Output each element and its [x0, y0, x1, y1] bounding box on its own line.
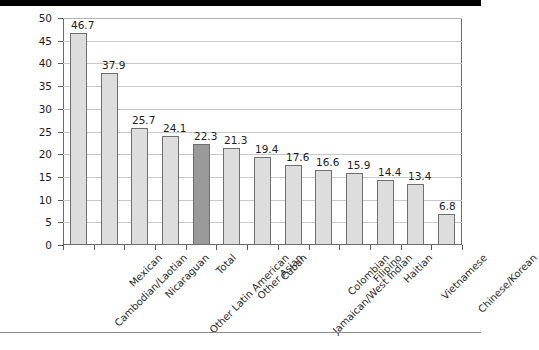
bar: [377, 180, 394, 245]
bar: [70, 33, 87, 245]
gridline: [63, 109, 462, 110]
bar-value-label: 15.9: [347, 160, 370, 171]
bar: [101, 73, 118, 245]
bar-value-label: 25.7: [132, 115, 155, 126]
bar-value-label: 24.1: [163, 123, 186, 134]
y-axis-tick-label: 35: [39, 81, 52, 91]
y-axis-tick-mark: [58, 63, 63, 64]
bar-value-label: 14.4: [378, 167, 401, 178]
y-axis-tick-mark: [58, 222, 63, 223]
bar: [254, 157, 271, 245]
y-axis-tick-mark: [58, 86, 63, 87]
bar-value-label: 17.6: [286, 152, 309, 163]
gridline: [63, 132, 462, 133]
y-axis-tick-mark: [58, 41, 63, 42]
x-axis-tick-mark: [462, 245, 463, 250]
y-axis-tick-label: 50: [39, 13, 52, 23]
bar-value-label: 37.9: [102, 60, 125, 71]
y-axis-tick-label: 10: [39, 195, 52, 205]
bar-value-label: 21.3: [224, 135, 247, 146]
bar-value-label: 46.7: [71, 20, 94, 31]
bar: [315, 170, 332, 245]
y-axis-tick-mark: [58, 132, 63, 133]
x-axis-labels: Cambodian/LaotianMexicanNicaraguanOther …: [63, 250, 462, 345]
bar-value-label: 13.4: [408, 171, 431, 182]
top-black-band: [0, 0, 481, 6]
y-axis-labels: 50454035302520151050: [30, 18, 58, 245]
y-axis-tick-label: 5: [45, 217, 52, 227]
x-axis-tick-label: Total: [214, 252, 238, 276]
y-axis-tick-mark: [58, 200, 63, 201]
bar-value-label: 16.6: [316, 157, 339, 168]
bar-value-label: 6.8: [439, 201, 456, 212]
y-axis-tick-mark: [58, 154, 63, 155]
bar: [438, 214, 455, 245]
bar: [407, 184, 424, 245]
y-axis-tick-label: 45: [39, 36, 52, 46]
y-axis-tick-mark: [58, 177, 63, 178]
bar-value-label: 19.4: [255, 144, 278, 155]
y-axis-tick-label: 25: [39, 127, 52, 137]
y-axis-tick-mark: [58, 18, 63, 19]
y-axis-tick-label: 15: [39, 172, 52, 182]
bar: [193, 144, 210, 245]
y-axis-tick-label: 40: [39, 58, 52, 68]
bar: [285, 165, 302, 245]
y-axis-tick-label: 20: [39, 149, 52, 159]
plot-area: 46.737.925.724.122.321.319.417.616.615.9…: [63, 18, 462, 245]
gridline: [63, 18, 462, 19]
x-axis-tick-label: Vietnamese: [439, 252, 489, 302]
gridline: [63, 41, 462, 42]
gridline: [63, 86, 462, 87]
y-axis-tick-label: 30: [39, 104, 52, 114]
bar-value-label: 22.3: [194, 131, 217, 142]
bottom-divider-rule: [0, 332, 481, 333]
bar: [162, 136, 179, 245]
bar: [131, 128, 148, 245]
y-axis-tick-mark: [58, 109, 63, 110]
y-axis-tick-label: 0: [45, 240, 52, 250]
bar: [223, 148, 240, 245]
y-axis-tick-mark: [58, 245, 63, 246]
bar: [346, 173, 363, 245]
